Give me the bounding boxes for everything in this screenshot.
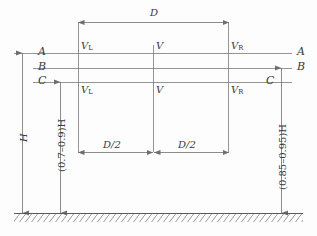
label-level-a-right-text: A <box>297 45 305 58</box>
label-level-b-left-text: B <box>38 60 46 73</box>
label-level-a-left-text: A <box>38 45 46 58</box>
ground-hatch-fill <box>14 214 303 222</box>
label-level-c-right: C <box>266 75 274 86</box>
label-level-c-left: C <box>38 75 46 86</box>
label-velocity-center-lower-base: V <box>156 84 163 95</box>
label-dimension-lower-range: (0.7–0.9)H <box>57 119 67 172</box>
label-level-b-right: B <box>297 61 305 72</box>
label-dimension-d-half-right: D/2 <box>178 140 196 150</box>
label-velocity-left-lower: VL <box>81 85 93 96</box>
label-level-a-right: A <box>297 46 305 57</box>
label-level-c-left-text: C <box>38 74 46 87</box>
label-velocity-left-upper: VL <box>81 41 93 52</box>
label-level-b-right-text: B <box>297 60 305 73</box>
label-dimension-d-half-left-text: D/2 <box>103 139 121 150</box>
label-velocity-center-upper-base: V <box>156 40 163 51</box>
label-velocity-center-lower: V <box>156 85 163 96</box>
label-velocity-right-upper-sub: R <box>238 44 243 52</box>
label-dimension-lower-range-text: (0.7–0.9)H <box>56 119 67 172</box>
label-velocity-left-upper-sub: L <box>88 44 93 52</box>
label-dimension-upper-range-text: (0.85–0.95)H <box>277 124 288 190</box>
label-dimension-d-text: D <box>150 7 158 18</box>
label-dimension-h: H <box>19 133 29 142</box>
engineering-diagram: D A B C A B C VL V VR VL V VR D/2 D/2 <box>0 0 317 236</box>
label-dimension-d-half-right-text: D/2 <box>178 139 196 150</box>
label-dimension-d: D <box>150 8 158 18</box>
level-lines-group <box>33 54 292 83</box>
label-velocity-right-lower-sub: R <box>238 88 243 96</box>
label-dimension-h-text: H <box>18 133 29 142</box>
label-dimension-d-half-left: D/2 <box>103 140 121 150</box>
label-velocity-center-upper: V <box>156 41 163 52</box>
label-level-c-right-text: C <box>266 74 274 87</box>
label-dimension-upper-range: (0.85–0.95)H <box>278 124 288 190</box>
label-level-b-left: B <box>38 61 46 72</box>
label-velocity-right-lower: VR <box>231 85 243 96</box>
ground-group <box>14 214 303 223</box>
structure-verticals-group <box>79 22 229 152</box>
label-velocity-left-lower-sub: L <box>88 88 93 96</box>
label-velocity-right-upper: VR <box>231 41 243 52</box>
diagram-canvas <box>0 0 317 236</box>
label-level-a-left: A <box>38 46 46 57</box>
